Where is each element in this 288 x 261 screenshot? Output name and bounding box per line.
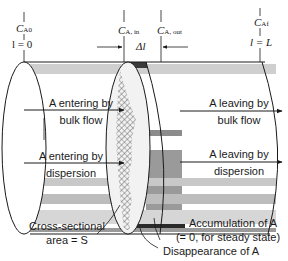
section-in-concentration-label: CA, in (118, 24, 139, 39)
disappearance-label: Disappearance of A (163, 245, 259, 258)
outlet-concentration-label: CAf (254, 16, 269, 31)
inlet-position-label: l = 0 (12, 38, 32, 51)
accumulation-label-line2: (= 0, for steady state) (168, 231, 288, 244)
enter-bulk-label-line1: A entering by (36, 97, 126, 110)
leave-bulk-label-line1: A leaving by (194, 97, 284, 110)
leave-dispersion-label-line1: A leaving by (194, 148, 284, 161)
inlet-face (2, 62, 46, 234)
dispersion-model-diagram: CA0 l = 0 CA, in CA, out Δl CAf l = L A … (0, 0, 288, 261)
leave-bulk-label-line2: bulk flow (194, 114, 284, 127)
cross-section-label-line1: Cross-sectional (22, 220, 112, 233)
enter-dispersion-label-line2: dispersion (26, 167, 116, 180)
enter-dispersion-label-line1: A entering by (26, 150, 116, 163)
enter-bulk-label-line2: bulk flow (36, 114, 126, 127)
outlet-position-label: l = L (250, 36, 272, 49)
leave-dispersion-label-line2: dispersion (194, 165, 284, 178)
section-out-concentration-label: CA, out (157, 24, 182, 39)
inlet-concentration-label: CA0 (16, 22, 32, 37)
cross-section-label-line2: area = S (22, 234, 112, 247)
accumulation-label-line1: Accumulation of A (178, 217, 288, 230)
delta-l-label: Δl (136, 40, 146, 53)
